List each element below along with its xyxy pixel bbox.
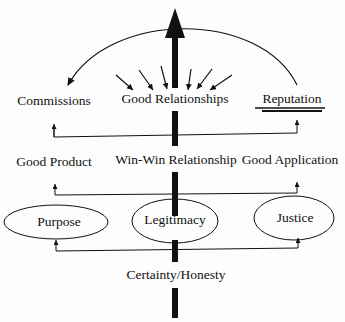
label-commissions: Commissions — [17, 94, 91, 108]
label-certainty-honesty: Certainty/Honesty — [127, 268, 226, 282]
label-justice: Justice — [277, 211, 314, 225]
label-legitimacy: Legitimacy — [144, 213, 205, 227]
label-good-product: Good Product — [16, 155, 91, 169]
label-purpose: Purpose — [37, 215, 81, 229]
label-reputation: Reputation — [262, 92, 321, 106]
label-good-application: Good Application — [242, 153, 338, 167]
label-good-relationships: Good Relationships — [122, 92, 229, 106]
diagram-canvas: Commissions Good Relationships Reputatio… — [0, 0, 345, 322]
label-win-win-relationship: Win-Win Relationship — [115, 153, 237, 167]
